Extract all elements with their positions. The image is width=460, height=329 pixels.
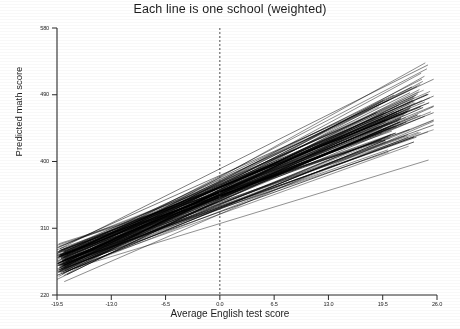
school-line <box>64 95 394 252</box>
chart-canvas: Each line is one school (weighted) Predi… <box>0 0 460 329</box>
school-line <box>57 102 425 253</box>
y-tick-label: 490 <box>23 91 49 97</box>
school-line <box>65 125 434 259</box>
y-tick-label: 580 <box>23 25 49 31</box>
x-tick-label: -13.0 <box>91 301 131 307</box>
school-line <box>63 111 407 251</box>
axes-group <box>52 28 437 300</box>
school-line <box>66 109 410 255</box>
x-tick-label: 0.0 <box>200 301 240 307</box>
school-line <box>64 122 393 256</box>
school-line <box>59 129 385 272</box>
school-line <box>58 100 389 248</box>
school-lines-group <box>57 63 434 282</box>
x-tick-label: -19.5 <box>37 301 77 307</box>
x-tick-label: 19.5 <box>363 301 403 307</box>
x-tick-label: 26.0 <box>417 301 457 307</box>
school-line <box>59 142 414 270</box>
school-line <box>59 136 405 267</box>
y-tick-label: 310 <box>23 225 49 231</box>
school-line <box>58 102 415 272</box>
x-tick-label: 6.5 <box>254 301 294 307</box>
y-tick-label: 400 <box>23 158 49 164</box>
x-tick-label: 13.0 <box>308 301 348 307</box>
school-line <box>59 111 394 256</box>
school-line <box>62 137 417 262</box>
x-tick-label: -6.5 <box>146 301 186 307</box>
school-line <box>60 94 428 255</box>
school-line <box>62 93 410 265</box>
school-line <box>64 123 388 267</box>
school-line <box>60 107 379 252</box>
plot-area <box>0 0 460 329</box>
y-tick-label: 220 <box>23 292 49 298</box>
school-line <box>63 113 433 259</box>
